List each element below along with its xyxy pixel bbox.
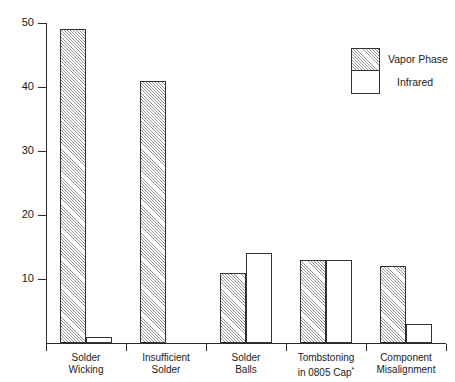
bar-infrared-2 <box>246 253 272 343</box>
x-tick-2 <box>206 344 207 351</box>
y-tick-10 <box>38 279 46 280</box>
category-label-line: Tombstoning <box>281 352 371 364</box>
bar-infrared-4 <box>406 324 432 343</box>
y-tick-30 <box>38 151 46 152</box>
y-tick-40 <box>38 87 46 88</box>
x-tick-5 <box>446 344 447 351</box>
bar-vapor-phase-3 <box>300 260 326 343</box>
category-label-line: in 0805 Cap* <box>281 364 371 379</box>
legend-swatch-infrared <box>352 71 379 93</box>
category-label-line: Solder <box>121 364 211 376</box>
category-label-line: Balls <box>201 364 291 376</box>
bar-vapor-phase-0 <box>60 29 86 343</box>
bar-vapor-phase-4 <box>380 266 406 343</box>
y-tick-label-50: 50 <box>4 17 34 28</box>
y-tick-label-30: 30 <box>4 145 34 156</box>
x-tick-4 <box>366 344 367 351</box>
category-label-1: InsufficientSolder <box>121 352 211 375</box>
category-label-line: Insufficient <box>121 352 211 364</box>
y-tick-50 <box>38 23 46 24</box>
category-label-2: SolderBalls <box>201 352 291 375</box>
y-tick-label-40: 40 <box>4 81 34 92</box>
y-tick-20 <box>38 215 46 216</box>
category-label-line: Solder <box>201 352 291 364</box>
category-label-line: Solder <box>41 352 131 364</box>
category-label-line: Wicking <box>41 364 131 376</box>
legend-label-vapor-phase: Vapor Phase <box>388 53 448 65</box>
x-tick-3 <box>286 344 287 351</box>
category-label-0: SolderWicking <box>41 352 131 375</box>
legend-label-infrared: Infrared <box>397 76 433 88</box>
category-label-line: Misalignment <box>361 364 451 376</box>
bar-infrared-0 <box>86 337 112 343</box>
x-tick-0 <box>46 344 47 351</box>
bar-vapor-phase-1 <box>140 81 166 343</box>
bar-infrared-3 <box>326 260 352 343</box>
bar-chart: 1020304050 SolderWickingInsufficientSold… <box>0 0 455 382</box>
x-axis-line <box>46 343 446 344</box>
category-label-3: Tombstoningin 0805 Cap* <box>281 352 371 378</box>
y-tick-label-10: 10 <box>4 273 34 284</box>
y-tick-label-20: 20 <box>4 209 34 220</box>
category-label-line: Component <box>361 352 451 364</box>
legend-swatch-vapor-phase <box>352 49 379 71</box>
x-tick-1 <box>126 344 127 351</box>
legend-swatch-stack <box>351 48 380 94</box>
bars-layer <box>46 20 446 343</box>
bar-vapor-phase-2 <box>220 273 246 343</box>
category-label-4: ComponentMisalignment <box>361 352 451 375</box>
